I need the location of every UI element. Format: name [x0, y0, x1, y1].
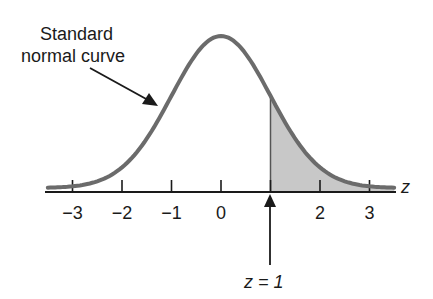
curve-label-arrow [90, 68, 148, 100]
axis-variable-label: z [400, 177, 410, 197]
curve-label-line2: normal curve [21, 46, 125, 66]
tick-label: −1 [161, 203, 182, 223]
tick-label: 3 [364, 203, 374, 223]
arrowhead-icon [142, 93, 158, 106]
tick-label: −2 [112, 203, 133, 223]
curve-label-line1: Standard [40, 24, 113, 44]
arrow-up-icon [264, 194, 276, 207]
tick-label: 0 [216, 203, 226, 223]
tick-label: 2 [315, 203, 325, 223]
normal-curve-diagram: −3−2−1023 z Standard normal curve z = 1 [0, 0, 433, 299]
z1-marker-label: z = 1 [243, 272, 284, 292]
tick-label: −3 [62, 203, 83, 223]
axis-tick-labels: −3−2−1023 [62, 203, 374, 223]
